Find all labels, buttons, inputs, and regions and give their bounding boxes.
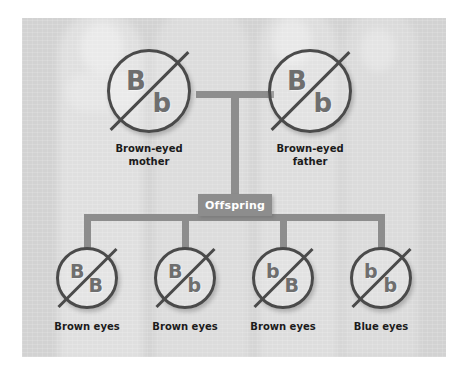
child-4-genotype-circle: b b bbox=[350, 247, 412, 309]
mother-allele-top: B bbox=[126, 68, 146, 94]
offspring-box-label: Offspring bbox=[205, 199, 265, 212]
father-caption-line-2: father bbox=[260, 156, 360, 169]
child-2-allele-top: B bbox=[168, 262, 182, 281]
mother-genotype-circle: B b bbox=[107, 49, 191, 133]
mother-caption-line-2: mother bbox=[99, 156, 199, 169]
child-1-divider-line bbox=[57, 248, 117, 308]
mother-caption-line-1: Brown-eyed bbox=[99, 143, 199, 156]
child-1-caption: Brown eyes bbox=[42, 321, 132, 334]
offspring-drop-3 bbox=[280, 214, 287, 248]
offspring-box: Offspring bbox=[198, 194, 272, 216]
child-2-allele-bottom: b bbox=[187, 276, 201, 295]
child-1-allele-bottom: B bbox=[89, 276, 103, 295]
child-2-caption-text: Brown eyes bbox=[140, 321, 230, 334]
child-4-caption-text: Blue eyes bbox=[336, 321, 426, 334]
child-2-divider-line bbox=[155, 248, 215, 308]
child-3-allele-bottom: B bbox=[285, 276, 299, 295]
child-3-caption-text: Brown eyes bbox=[238, 321, 328, 334]
offspring-drop-1 bbox=[84, 214, 91, 248]
mother-divider-line bbox=[109, 51, 189, 131]
child-3-divider-line bbox=[253, 248, 313, 308]
background-head-3 bbox=[360, 28, 396, 72]
parents-vertical-stem bbox=[231, 91, 239, 195]
offspring-drop-2 bbox=[182, 214, 189, 248]
father-caption-line-1: Brown-eyed bbox=[260, 143, 360, 156]
child-4-allele-top: b bbox=[364, 262, 378, 281]
father-allele-bottom: b bbox=[313, 90, 332, 116]
child-4-divider-line bbox=[351, 248, 411, 308]
child-1-allele-top: B bbox=[70, 262, 84, 281]
father-divider-line bbox=[270, 51, 350, 131]
child-3-genotype-circle: b B bbox=[252, 247, 314, 309]
genetics-diagram: B b Brown-eyed mother B b Brown-eyed fat… bbox=[0, 0, 468, 375]
child-4-allele-bottom: b bbox=[383, 276, 397, 295]
mother-allele-bottom: b bbox=[152, 90, 171, 116]
child-1-genotype-circle: B B bbox=[56, 247, 118, 309]
father-caption: Brown-eyed father bbox=[260, 143, 360, 168]
child-3-allele-top: b bbox=[266, 262, 280, 281]
diagram-panel: B b Brown-eyed mother B b Brown-eyed fat… bbox=[22, 18, 446, 357]
child-3-caption: Brown eyes bbox=[238, 321, 328, 334]
child-1-caption-text: Brown eyes bbox=[42, 321, 132, 334]
child-4-caption: Blue eyes bbox=[336, 321, 426, 334]
mother-caption: Brown-eyed mother bbox=[99, 143, 199, 168]
child-2-caption: Brown eyes bbox=[140, 321, 230, 334]
child-2-genotype-circle: B b bbox=[154, 247, 216, 309]
father-allele-top: B bbox=[287, 68, 307, 94]
offspring-drop-4 bbox=[378, 214, 385, 248]
father-genotype-circle: B b bbox=[268, 49, 352, 133]
